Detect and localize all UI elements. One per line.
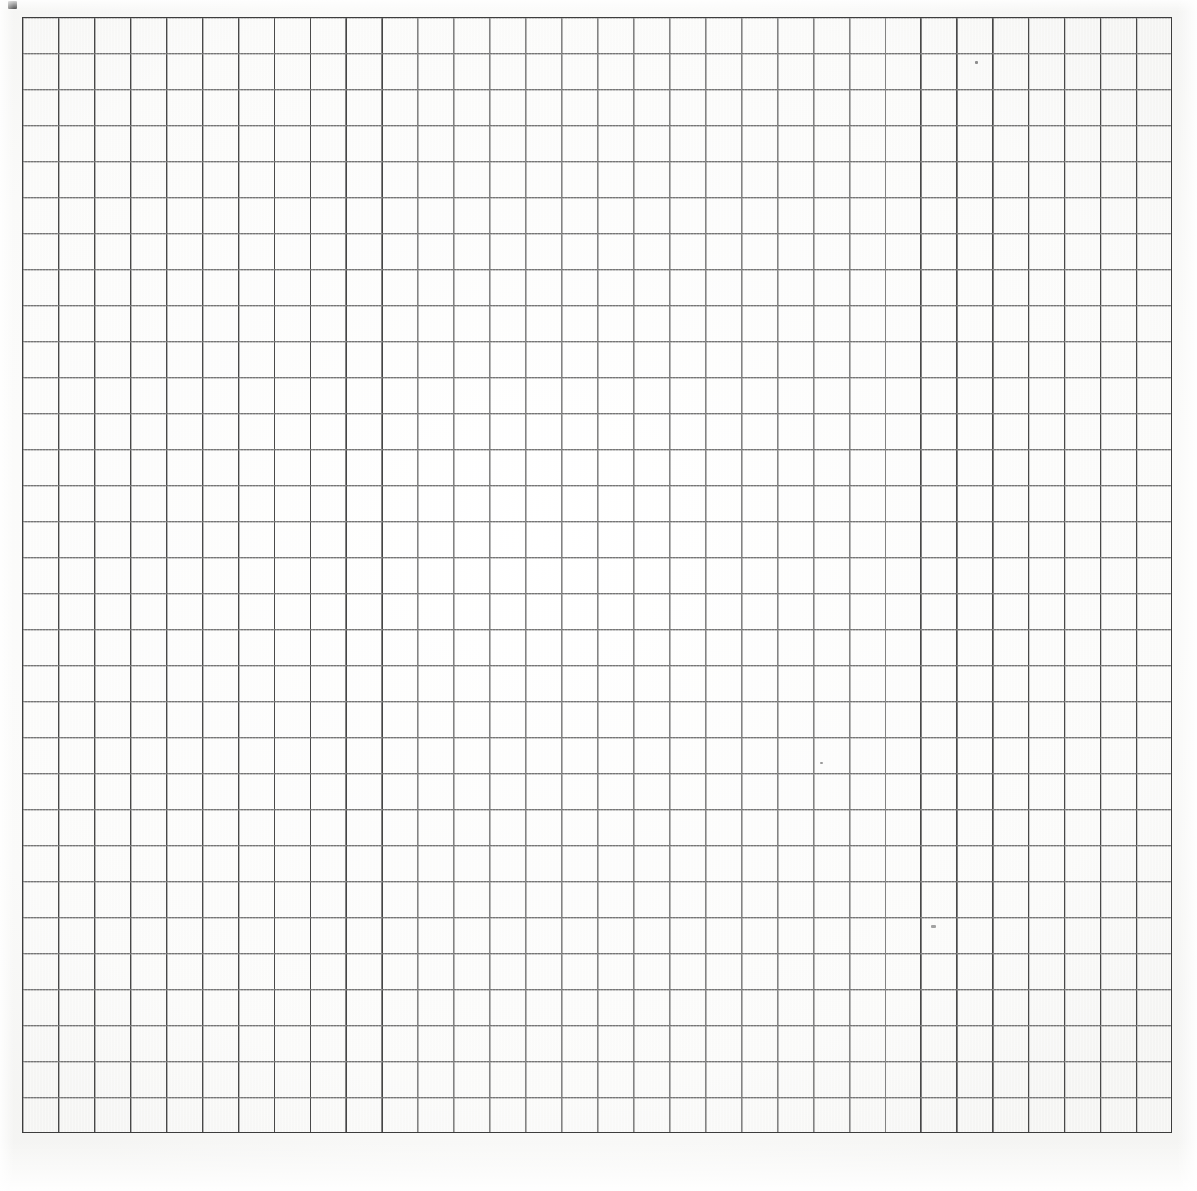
registration-mark-icon (8, 1, 17, 9)
graph-paper-grid (22, 17, 1172, 1133)
grid-ruling-secondary (22, 17, 1172, 1133)
page-canvas (0, 0, 1197, 1191)
